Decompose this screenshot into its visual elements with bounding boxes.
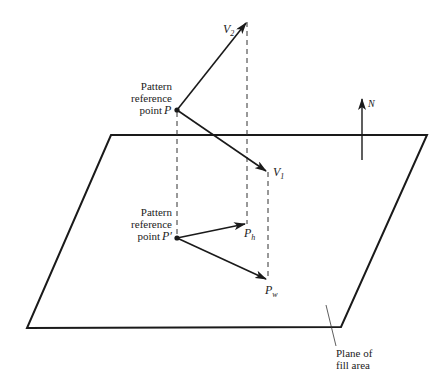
vector-v1-subscript: 1 [280,172,284,181]
point-p-label-line3: point [139,104,162,116]
vector-pw-label: Pw [264,283,278,299]
plane-label-line1: Plane of [336,347,373,359]
vector-v2-arrow [177,23,246,110]
vector-ph-arrow [177,224,245,238]
vector-v1-arrow [177,110,266,171]
plane-label-line2: fill area [336,359,370,371]
point-p-prime-dot [174,235,179,240]
point-p-prime-label-line3: point [137,230,160,242]
point-p-prime-label-line1: Pattern [141,206,173,218]
vector-pw-arrow [177,238,266,279]
vector-ph-label: Ph [243,226,255,242]
vector-pw-subscript: w [272,290,278,299]
plane-label-leader [326,305,336,346]
vector-v2-label: V2 [223,22,234,38]
fill-area-plane [27,135,427,328]
vector-v2-subscript: 2 [230,29,234,38]
point-p-dot [174,107,179,112]
point-p-symbol: P [163,103,172,117]
vector-v1-label: V1 [273,165,284,181]
vector-ph-subscript: h [251,233,255,242]
point-p-prime-symbol: P′ [161,229,172,243]
point-p-label-line1: Pattern [141,80,173,92]
pattern-reference-diagram: Pattern reference point P Pattern refere… [0,0,446,384]
normal-vector-label: N [367,98,376,109]
